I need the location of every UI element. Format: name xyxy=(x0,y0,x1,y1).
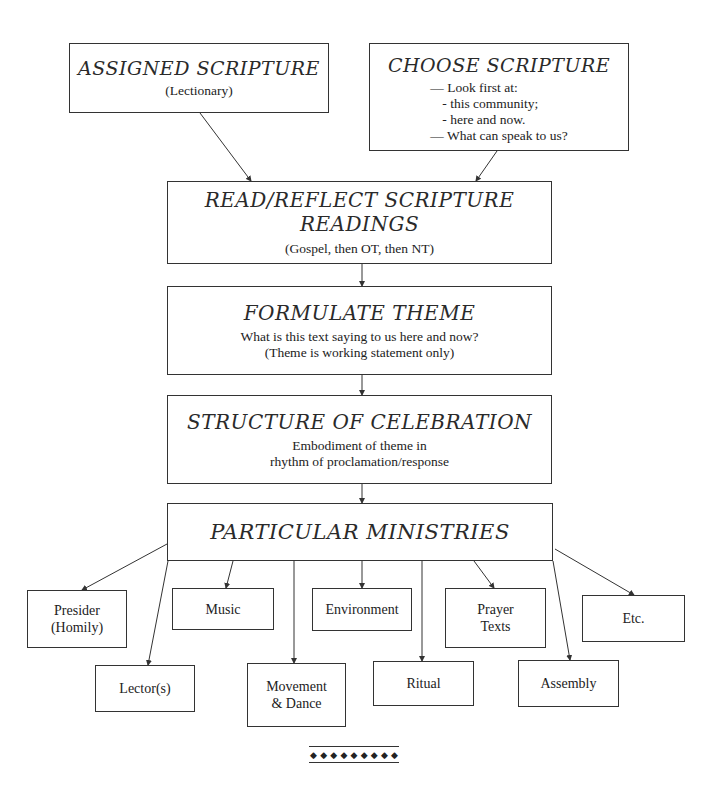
formulate-theme-line: What is this text saying to us here and … xyxy=(240,329,478,345)
diamond-icon: ◆ xyxy=(381,750,388,760)
choose-scripture-title: CHOOSE SCRIPTURE xyxy=(388,54,610,76)
choose-line: — Look first at: xyxy=(430,80,567,96)
ministry-movement-dance: Movement & Dance xyxy=(247,663,346,727)
ministry-presider: Presider (Homily) xyxy=(27,590,127,648)
diamond-icon: ◆ xyxy=(310,750,317,760)
ministry-label: & Dance xyxy=(271,695,321,712)
formulate-theme-title: FORMULATE THEME xyxy=(244,301,476,325)
ministry-lectors: Lector(s) xyxy=(95,665,195,712)
ministry-ritual: Ritual xyxy=(373,661,474,706)
diamond-icon: ◆ xyxy=(340,750,347,760)
ministry-label: Presider xyxy=(54,602,100,619)
read-reflect-title: READ/REFLECT SCRIPTURE READINGS xyxy=(168,188,551,236)
ministry-label: (Homily) xyxy=(51,619,103,636)
diamond-icon: ◆ xyxy=(320,750,327,760)
choose-line: — What can speak to us? xyxy=(430,128,567,144)
ministry-environment: Environment xyxy=(312,588,412,631)
diamond-icon: ◆ xyxy=(371,750,378,760)
ministry-assembly: Assembly xyxy=(518,660,619,707)
formulate-theme-box: FORMULATE THEME What is this text saying… xyxy=(167,286,552,375)
ministry-music: Music xyxy=(172,588,274,630)
choose-line: - here and now. xyxy=(430,112,567,128)
structure-celebration-box: STRUCTURE OF CELEBRATION Embodiment of t… xyxy=(167,395,552,484)
ministry-prayer-texts: Prayer Texts xyxy=(445,588,546,648)
assigned-scripture-title: ASSIGNED SCRIPTURE xyxy=(78,57,320,79)
diamond-icon: ◆ xyxy=(361,750,368,760)
structure-celebration-line: rhythm of proclamation/response xyxy=(270,454,449,470)
ministry-etc: Etc. xyxy=(582,595,685,642)
ministry-label: Movement xyxy=(266,678,327,695)
ministry-label: Environment xyxy=(325,601,398,618)
diamond-icon: ◆ xyxy=(351,750,358,760)
structure-celebration-title: STRUCTURE OF CELEBRATION xyxy=(187,410,532,434)
ministry-label: Etc. xyxy=(622,610,644,627)
particular-ministries-title: PARTICULAR MINISTRIES xyxy=(210,520,510,544)
choose-scripture-list: — Look first at: - this community; - her… xyxy=(430,80,567,144)
choose-scripture-box: CHOOSE SCRIPTURE — Look first at: - this… xyxy=(369,43,629,151)
read-reflect-subtitle: (Gospel, then OT, then NT) xyxy=(285,241,434,257)
ministry-label: Assembly xyxy=(541,675,597,692)
diamond-ornament-divider: ◆ ◆ ◆ ◆ ◆ ◆ ◆ ◆ ◆ xyxy=(309,746,399,763)
assigned-scripture-subtitle: (Lectionary) xyxy=(165,83,232,99)
particular-ministries-box: PARTICULAR MINISTRIES xyxy=(167,503,553,561)
assigned-scripture-box: ASSIGNED SCRIPTURE (Lectionary) xyxy=(69,43,329,113)
ministry-label: Ritual xyxy=(406,675,440,692)
diamond-icon: ◆ xyxy=(330,750,337,760)
ministry-label: Lector(s) xyxy=(119,680,170,697)
read-reflect-box: READ/REFLECT SCRIPTURE READINGS (Gospel,… xyxy=(167,181,552,264)
ministry-label: Texts xyxy=(480,618,510,635)
choose-line: - this community; xyxy=(430,96,567,112)
ministry-label: Music xyxy=(206,601,241,618)
formulate-theme-line: (Theme is working statement only) xyxy=(265,345,455,361)
diamond-icon: ◆ xyxy=(391,750,398,760)
ministry-label: Prayer xyxy=(477,601,514,618)
structure-celebration-line: Embodiment of theme in xyxy=(292,438,427,454)
